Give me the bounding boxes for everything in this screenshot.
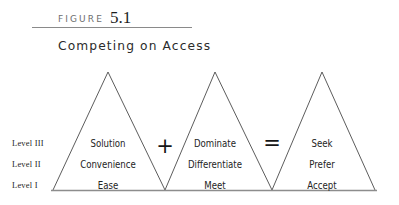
figure-container: FIGURE 5.1 Competing on Access Level III…	[0, 0, 399, 205]
level-label-3: Level III	[12, 138, 44, 148]
triangle-1-row-2: Convenience	[61, 154, 156, 175]
triangle-2-row-3: Meet	[168, 175, 263, 196]
triangle-3-row-2: Prefer	[275, 154, 370, 175]
level-label-1: Level I	[12, 180, 38, 190]
triangle-1-row-1: Solution	[61, 133, 156, 154]
triangle-2-row-2: Differentiate	[168, 154, 263, 175]
triangle-3-row-3: Accept	[275, 175, 370, 196]
triangle-2-row-1: Dominate	[168, 133, 263, 154]
triangle-1-text: Solution Convenience Ease	[61, 133, 156, 196]
triangle-2-text: Dominate Differentiate Meet	[168, 133, 263, 196]
triangle-3-row-1: Seek	[275, 133, 370, 154]
level-label-2: Level II	[12, 159, 41, 169]
triangle-1-row-3: Ease	[61, 175, 156, 196]
triangle-3-text: Seek Prefer Accept	[275, 133, 370, 196]
